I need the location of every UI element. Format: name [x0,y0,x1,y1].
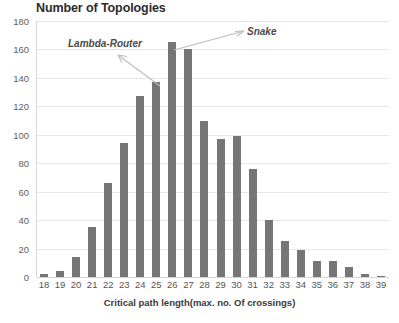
x-tick-label: 33 [279,279,290,290]
bar-slot [52,21,68,277]
bar [377,276,385,277]
y-tick-label: 80 [18,158,29,169]
x-tick-label: 35 [311,279,322,290]
bar [152,82,160,277]
bar [72,257,80,277]
bar [217,139,225,277]
bar-slot [261,21,277,277]
bar [40,274,48,277]
y-tick-label: 140 [13,72,29,83]
annotation-lambda-router: Lambda-Router [68,38,142,49]
x-tick-label: 30 [231,279,242,290]
bar [313,261,321,277]
bar [249,169,257,277]
x-tick-label: 38 [360,279,371,290]
bar-slot [277,21,293,277]
x-tick-label: 19 [55,279,66,290]
bar [200,121,208,277]
bar-slot [180,21,196,277]
bar [168,42,176,277]
y-tick-label: 40 [18,215,29,226]
y-tick-label: 120 [13,101,29,112]
x-tick-label: 23 [119,279,130,290]
bar-slot [309,21,325,277]
x-tick-label: 21 [87,279,98,290]
bar [88,227,96,277]
y-tick-label: 60 [18,186,29,197]
bar-chart: Number of Topologies 0204060801001201401… [0,0,399,323]
bar-slot [245,21,261,277]
bar [120,143,128,277]
x-tick-label: 34 [295,279,306,290]
y-axis: 020406080100120140160180 [0,21,33,277]
x-tick-label: 32 [263,279,274,290]
bar-slot [213,21,229,277]
x-tick-label: 27 [183,279,194,290]
bar [56,271,64,277]
bar-slot [196,21,212,277]
bar [136,96,144,277]
x-tick-label: 28 [199,279,210,290]
gridline-0 [37,277,389,278]
x-tick-label: 39 [376,279,387,290]
x-tick-label: 29 [215,279,226,290]
y-tick-label: 100 [13,129,29,140]
bar-slot [357,21,373,277]
bar [233,136,241,277]
bar [329,261,337,277]
annotation-snake: Snake [247,26,276,37]
bar-slot [100,21,116,277]
bar [265,220,273,277]
bar-slot [116,21,132,277]
x-tick-label: 25 [151,279,162,290]
bar-slot [341,21,357,277]
y-tick-label: 160 [13,44,29,55]
x-tick-label: 22 [103,279,114,290]
bar [345,267,353,277]
bar-slot [164,21,180,277]
x-tick-label: 18 [39,279,50,290]
bar-slot [373,21,389,277]
x-axis-title: Critical path length(max. no. Of crossin… [0,297,399,308]
bar [297,250,305,277]
bar [361,274,369,277]
y-tick-label: 20 [18,243,29,254]
bar-slot [84,21,100,277]
bar-slot [148,21,164,277]
x-tick-label: 26 [167,279,178,290]
bars-layer [36,21,389,277]
bar [104,183,112,277]
x-tick-label: 36 [328,279,339,290]
bar-slot [68,21,84,277]
bar [184,49,192,277]
x-axis: 1819202122232425262728293031323334353637… [36,279,389,293]
x-tick-label: 37 [344,279,355,290]
bar-slot [36,21,52,277]
chart-title: Number of Topologies [36,1,166,15]
x-tick-label: 20 [71,279,82,290]
bar-slot [132,21,148,277]
x-tick-label: 24 [135,279,146,290]
y-tick-label: 180 [13,16,29,27]
bar-slot [325,21,341,277]
bar [281,241,289,277]
y-tick-label: 0 [24,272,29,283]
bar-slot [293,21,309,277]
bar-slot [229,21,245,277]
x-tick-label: 31 [247,279,258,290]
